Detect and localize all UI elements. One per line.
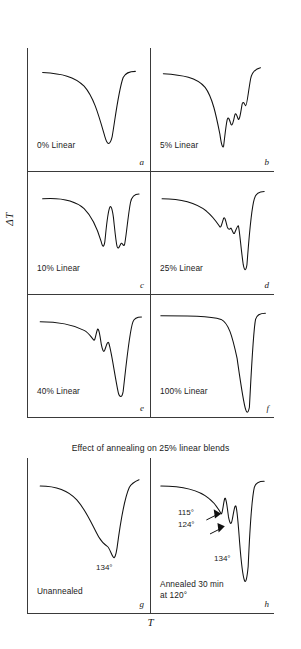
panel-a: 0% Linear a: [28, 48, 150, 171]
annealing-caption: Effect of annealing on 25% linear blends: [27, 443, 274, 453]
panel-g-label: Unannealed: [37, 586, 83, 597]
thermogram-trace-f: [161, 313, 266, 412]
curve-d: [151, 172, 274, 294]
annotation-h-peak-124: 124°: [178, 520, 195, 529]
thermogram-trace-b: [163, 68, 260, 147]
thermogram-trace-h: [161, 481, 264, 581]
panel-d: 25% Linear d: [151, 172, 274, 294]
panel-h: 115° 124° 134° Annealed 30 min at 120° h: [151, 458, 274, 613]
thermogram-trace-d: [162, 192, 264, 270]
panel-e-letter: e: [140, 403, 144, 413]
annotation-h-peak-134: 134°: [214, 554, 231, 563]
figure-dsc-thermograms: ΔT 0% Linear a 5% Linear b: [0, 0, 301, 649]
thermogram-trace-e: [40, 317, 141, 397]
thermogram-trace-g: [40, 480, 139, 558]
axis-bottom-top-block: [27, 417, 274, 418]
panel-b: 5% Linear b: [151, 48, 274, 171]
panel-c-letter: c: [140, 280, 144, 290]
panel-a-letter: a: [140, 157, 145, 167]
panel-c: 10% Linear c: [28, 172, 150, 294]
axis-bottom-main: [27, 613, 274, 614]
panel-e-label: 40% Linear: [37, 386, 80, 397]
panel-e: 40% Linear e: [28, 295, 150, 417]
curve-c: [28, 172, 150, 294]
panel-c-label: 10% Linear: [37, 263, 80, 274]
thermogram-trace-c: [43, 194, 139, 248]
panel-a-label: 0% Linear: [37, 140, 75, 151]
panel-h-label: Annealed 30 min at 120°: [160, 579, 224, 601]
panel-grid-top: 0% Linear a 5% Linear b 10% Linear c 25%…: [27, 48, 274, 417]
panel-g: 134° Unannealed g: [28, 458, 150, 613]
thermogram-trace-a: [43, 71, 136, 143]
curve-b: [151, 48, 274, 171]
x-axis-label: T: [0, 616, 301, 628]
curve-a: [28, 48, 150, 171]
panel-f-letter: f: [266, 403, 269, 413]
panel-g-letter: g: [140, 599, 145, 609]
panel-d-label: 25% Linear: [160, 263, 203, 274]
panel-grid-bottom: 134° Unannealed g 115° 124° 134° Anneale…: [27, 458, 274, 613]
curve-f: [151, 295, 274, 417]
panel-h-letter: h: [265, 599, 270, 609]
panel-b-label: 5% Linear: [160, 140, 198, 151]
curve-e: [28, 295, 150, 417]
annotation-g-peak-134: 134°: [96, 563, 113, 572]
panel-d-letter: d: [265, 280, 270, 290]
panel-f-label: 100% Linear: [160, 386, 208, 397]
panel-f: 100% Linear f: [151, 295, 274, 417]
panel-b-letter: b: [265, 157, 270, 167]
annotation-h-peak-115: 115°: [178, 508, 194, 517]
